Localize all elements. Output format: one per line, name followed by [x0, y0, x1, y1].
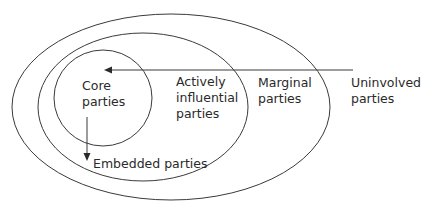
- actively-influential-label: Actively influential parties: [176, 74, 242, 121]
- arrowhead-left-icon: [104, 67, 112, 74]
- stakeholder-diagram: Core parties Actively influential partie…: [0, 0, 433, 213]
- marginal-parties-ellipse: [12, 14, 330, 200]
- core-to-embedded-arrow: [84, 117, 91, 161]
- arrowhead-down-icon: [84, 153, 91, 161]
- marginal-parties-label: Marginal parties: [258, 75, 316, 106]
- core-parties-label: Core parties: [82, 78, 125, 109]
- embedded-parties-label: Embedded parties: [93, 156, 207, 171]
- uninvolved-parties-label: Uninvolved parties: [351, 75, 425, 106]
